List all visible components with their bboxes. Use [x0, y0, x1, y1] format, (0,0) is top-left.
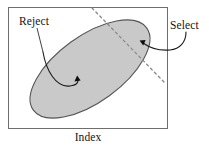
reject-leader-line: [37, 28, 43, 52]
diagram-figure: Reject Select Index: [0, 0, 209, 149]
axis-label-index: Index: [0, 131, 176, 143]
select-annotation-label: Select: [170, 19, 199, 31]
reject-annotation-label: Reject: [19, 15, 49, 27]
